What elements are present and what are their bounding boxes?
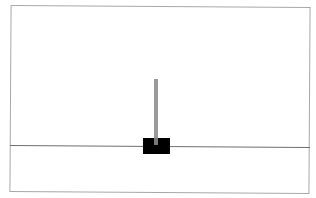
game-viewport-frame bbox=[9, 5, 310, 194]
pole bbox=[154, 79, 158, 145]
pole-axle bbox=[154, 138, 158, 145]
